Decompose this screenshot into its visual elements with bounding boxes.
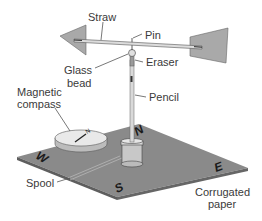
pin-leader <box>133 34 142 38</box>
glass-bead-leader <box>95 54 128 68</box>
eraser <box>130 56 134 66</box>
eraser-leader <box>135 60 143 62</box>
label-eraser: Eraser <box>146 56 179 68</box>
glass-bead <box>129 50 136 57</box>
spool-bottom-rim <box>121 161 143 167</box>
straw <box>74 39 202 49</box>
label-glass-bead-line1: Glass <box>64 64 93 76</box>
label-straw: Straw <box>88 11 116 23</box>
label-magnetic-compass-line1: Magnetic <box>17 86 62 98</box>
straw-slot-right <box>194 47 202 48</box>
label-spool: Spool <box>26 177 54 189</box>
compass-leader <box>55 108 70 131</box>
pencil <box>130 56 134 142</box>
label-glass-bead-line2: bead <box>67 77 91 89</box>
magnetic-compass: N <box>55 127 107 152</box>
label-corrugated-paper-line1: Corrugated <box>195 186 250 198</box>
wind-vane-diagram: W N E S N Straw Pin Glass bead <box>0 0 262 221</box>
straw-leader <box>101 22 103 40</box>
spool <box>121 139 143 168</box>
label-pencil: Pencil <box>149 91 179 103</box>
label-corrugated-paper-line2: paper <box>208 198 236 210</box>
label-pin: Pin <box>145 29 161 41</box>
pencil-mark <box>131 76 133 82</box>
pencil-leader <box>135 95 146 97</box>
label-magnetic-compass-line2: compass <box>17 98 62 110</box>
pencil-body <box>130 60 134 142</box>
